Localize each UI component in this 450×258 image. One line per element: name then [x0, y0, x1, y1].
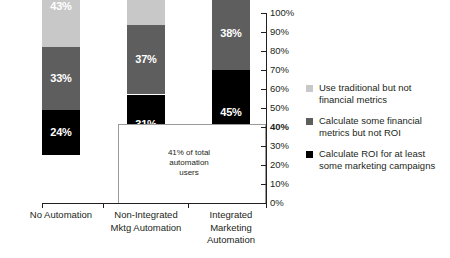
y-axis-tick	[261, 165, 266, 166]
y-axis-tick	[261, 70, 266, 71]
stacked-bar-chart: 43% 33% 24% 31% 37% 31% 17%	[0, 0, 450, 258]
y-axis-tick-label: 50%	[270, 103, 289, 113]
y-axis-tick-label: 0%	[270, 198, 284, 208]
x-axis-tick	[103, 203, 104, 208]
annotation-line-2: automation	[166, 158, 212, 168]
y-axis-tick	[261, 13, 266, 14]
y-axis-tick	[261, 108, 266, 109]
legend-swatch-icon	[306, 85, 313, 92]
y-axis-tick	[261, 32, 266, 33]
bar-segment-value: 43%	[50, 1, 71, 12]
legend-item-traditional-metrics[interactable]: Use traditional but not financial metric…	[306, 82, 450, 106]
y-axis-tick-label-emphasis: 40%	[270, 122, 289, 132]
y-axis-tick-label: 90%	[270, 27, 289, 37]
legend-item-label-line-2: financial metrics	[319, 94, 450, 106]
chart-legend: Use traditional but not financial metric…	[306, 82, 450, 181]
category-label-line-1: Integrated	[176, 209, 286, 222]
annotation-line-3: users	[166, 168, 212, 178]
y-axis-tick	[261, 127, 266, 128]
bar-segment-financial[interactable]: 38%	[212, 0, 250, 70]
legend-swatch-icon	[306, 118, 313, 125]
legend-item-label-line-2: some marketing campaigns	[319, 160, 450, 172]
bar-segment-value: 45%	[220, 107, 241, 118]
y-axis-tick-label: 100%	[270, 8, 294, 18]
bar-segment-roi[interactable]: 24%	[42, 110, 80, 155]
category-label-line-3: Automation	[176, 234, 286, 247]
legend-item-label-line-2: metrics but not ROI	[319, 127, 450, 139]
annotation-callout-text: 41% of total automation users	[166, 148, 212, 178]
annotation-line-1: 41% of total	[166, 148, 212, 158]
bar-segment-traditional[interactable]: 31%	[127, 0, 165, 25]
bar-group-no-automation[interactable]: 43% 33% 24%	[42, 0, 80, 155]
legend-item-financial-metrics[interactable]: Calculate some financial metrics but not…	[306, 115, 450, 139]
bar-segment-financial[interactable]: 33%	[42, 47, 80, 109]
x-axis-category-label: Integrated Marketing Automation	[176, 209, 286, 247]
x-axis-tick	[42, 203, 43, 208]
y-axis-tick	[261, 51, 266, 52]
plot-area: 43% 33% 24% 31% 37% 31% 17%	[0, 0, 270, 210]
y-axis-tick	[261, 146, 266, 147]
bar-segment-value: 33%	[50, 73, 71, 84]
legend-item-label-line-1: Calculate ROI for at least	[319, 148, 450, 160]
y-axis-tick-label: 30%	[270, 141, 289, 151]
x-axis-tick	[188, 203, 189, 208]
y-axis-tick	[261, 184, 266, 185]
y-axis-tick-label: 80%	[270, 46, 289, 56]
bar-segment-value: 31%	[135, 0, 156, 1]
y-axis-tick-label: 20%	[270, 160, 289, 170]
x-axis-line	[42, 203, 266, 204]
legend-item-calculate-roi[interactable]: Calculate ROI for at least some marketin…	[306, 148, 450, 172]
y-axis-tick	[261, 89, 266, 90]
y-axis-tick-label: 10%	[270, 179, 289, 189]
category-label-line-2: Marketing	[176, 222, 286, 235]
bar-segment-value: 24%	[50, 127, 71, 138]
bar-segment-value: 37%	[135, 54, 156, 65]
legend-item-label-line-1: Use traditional but not	[319, 82, 450, 94]
y-axis-tick-label: 60%	[270, 84, 289, 94]
legend-item-label-line-1: Calculate some financial	[319, 115, 450, 127]
y-axis-tick-label: 70%	[270, 65, 289, 75]
y-axis-line	[266, 13, 267, 204]
bar-segment-traditional[interactable]: 43%	[42, 0, 80, 47]
y-axis-tick	[261, 203, 266, 204]
legend-swatch-icon	[306, 151, 313, 158]
bar-segment-financial[interactable]: 37%	[127, 25, 165, 95]
bar-segment-value: 38%	[220, 28, 241, 39]
